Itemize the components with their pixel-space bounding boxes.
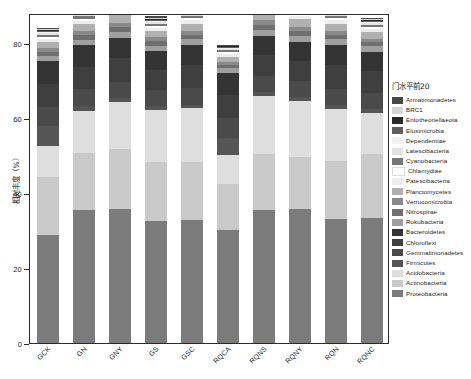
bar-segment[interactable] [361, 93, 383, 109]
bar-segment[interactable] [289, 42, 311, 61]
legend-item[interactable]: Rokubacteria [392, 217, 470, 227]
bar-segment[interactable] [253, 96, 275, 155]
legend-item[interactable]: Elusimicrobia [392, 126, 470, 136]
legend-item[interactable]: Chloroflexi [392, 238, 470, 248]
bar-segment[interactable] [109, 209, 131, 343]
bar-group[interactable] [145, 14, 167, 343]
legend-item[interactable]: Bacteroidetes [392, 227, 470, 237]
bar-group[interactable] [253, 14, 275, 343]
bar-group[interactable] [325, 14, 347, 343]
legend-item[interactable]: Nitrospirae [392, 207, 470, 217]
legend-item[interactable]: Gemmatimonadetes [392, 248, 470, 258]
bar-segment[interactable] [325, 65, 347, 89]
bar-segment[interactable] [109, 82, 131, 99]
bar-group[interactable] [361, 14, 383, 343]
bar-segment[interactable] [181, 65, 203, 88]
bar-group[interactable] [217, 14, 239, 343]
bar-segment[interactable] [253, 55, 275, 76]
bar-segment[interactable] [325, 45, 347, 65]
x-axis: GCKGNGNYGSGSCRQCARQNSRQNYRQNRQNC [29, 345, 389, 379]
bar-segment[interactable] [361, 218, 383, 343]
bar-segment[interactable] [73, 153, 95, 210]
bar-segment[interactable] [289, 209, 311, 343]
bar-segment[interactable] [325, 219, 347, 343]
bar-segment[interactable] [73, 67, 95, 90]
legend-item[interactable]: Firmicutes [392, 258, 470, 268]
bar-group[interactable] [181, 14, 203, 343]
legend-swatch [392, 178, 403, 185]
legend-item[interactable]: Dependentiae [392, 136, 470, 146]
bar-segment[interactable] [289, 61, 311, 81]
legend-item[interactable]: BRC1 [392, 105, 470, 115]
bar-segment[interactable] [217, 155, 239, 184]
bar-segment[interactable] [145, 90, 167, 106]
bar-segment[interactable] [109, 15, 131, 23]
bar-segment[interactable] [361, 52, 383, 72]
bar-segment[interactable] [145, 70, 167, 91]
bar-segment[interactable] [37, 61, 59, 83]
bar-group[interactable] [73, 14, 95, 343]
bar-segment[interactable] [325, 161, 347, 219]
bar-segment[interactable] [217, 73, 239, 95]
legend-item[interactable]: Armatimonadetes [392, 95, 470, 105]
bar-segment[interactable] [217, 138, 239, 155]
bar-segment[interactable] [109, 58, 131, 81]
bar-segment[interactable] [37, 146, 59, 177]
bar-segment[interactable] [109, 149, 131, 209]
bar-segment[interactable] [253, 154, 275, 209]
bar-segment[interactable] [181, 88, 203, 105]
bar-segment[interactable] [361, 71, 383, 93]
bar-segment[interactable] [253, 76, 275, 92]
bar-segment[interactable] [145, 221, 167, 343]
legend-item[interactable]: Entotheonellaeota [392, 115, 470, 125]
bar-segment[interactable] [253, 36, 275, 56]
legend-item[interactable]: Proteobacteria [392, 289, 470, 299]
legend-item[interactable]: Chlamydiae [392, 166, 470, 176]
legend-item[interactable]: Planctomycetes [392, 187, 470, 197]
bar-segment[interactable] [37, 107, 59, 126]
bar-segment[interactable] [289, 101, 311, 157]
y-tick-label: 0 [18, 340, 22, 349]
bar-segment[interactable] [145, 110, 167, 162]
legend-item[interactable]: Verrucomicrobia [392, 197, 470, 207]
bar-segment[interactable] [37, 235, 59, 343]
legend-item[interactable]: Acidobacteria [392, 268, 470, 278]
bar-segment[interactable] [217, 184, 239, 230]
bar-segment[interactable] [181, 220, 203, 343]
bar-segment[interactable] [325, 109, 347, 161]
bar-segment[interactable] [73, 210, 95, 343]
bar-segment[interactable] [109, 102, 131, 149]
bar-segment[interactable] [289, 81, 311, 97]
bar-segment[interactable] [289, 157, 311, 209]
legend-item[interactable]: Latescibacteria [392, 146, 470, 156]
bar-segment[interactable] [181, 108, 203, 162]
bar-segment[interactable] [361, 154, 383, 219]
bar-segment[interactable] [73, 89, 95, 106]
bar-segment[interactable] [289, 19, 311, 26]
bar-segment[interactable] [145, 162, 167, 221]
bar-group[interactable] [289, 14, 311, 343]
bar-segment[interactable] [145, 51, 167, 69]
bar-segment[interactable] [253, 210, 275, 344]
bar-segment[interactable] [217, 95, 239, 118]
bar-segment[interactable] [181, 45, 203, 65]
bar-segment[interactable] [361, 113, 383, 154]
bar-group[interactable] [109, 14, 131, 343]
legend-item[interactable]: Cyanobacteria [392, 156, 470, 166]
bar-segment[interactable] [181, 24, 203, 31]
bar-segment[interactable] [217, 118, 239, 138]
legend-item[interactable]: Patescibacteria [392, 177, 470, 187]
bar-segment[interactable] [325, 89, 347, 106]
bar-segment[interactable] [37, 84, 59, 107]
bar-segment[interactable] [181, 162, 203, 220]
bar-segment[interactable] [109, 38, 131, 58]
bar-segment[interactable] [325, 24, 347, 31]
bar-segment[interactable] [217, 230, 239, 343]
bar-group[interactable] [37, 14, 59, 343]
bar-segment[interactable] [37, 177, 59, 235]
bar-segment[interactable] [37, 126, 59, 146]
bar-segment[interactable] [73, 24, 95, 31]
bar-segment[interactable] [73, 111, 95, 153]
bar-segment[interactable] [73, 45, 95, 66]
legend-item[interactable]: Actinobacteria [392, 278, 470, 288]
